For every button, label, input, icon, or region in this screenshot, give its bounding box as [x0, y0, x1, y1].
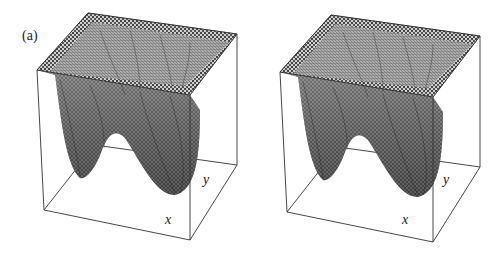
x-axis-label: x: [164, 212, 172, 227]
y-axis-label: y: [441, 172, 450, 187]
surface-plot-right: y x: [280, 15, 480, 242]
x-axis-label: x: [401, 212, 409, 227]
figure: (a): [0, 0, 490, 262]
surface-plot-left: y x: [37, 13, 237, 240]
y-axis-label: y: [201, 172, 210, 187]
